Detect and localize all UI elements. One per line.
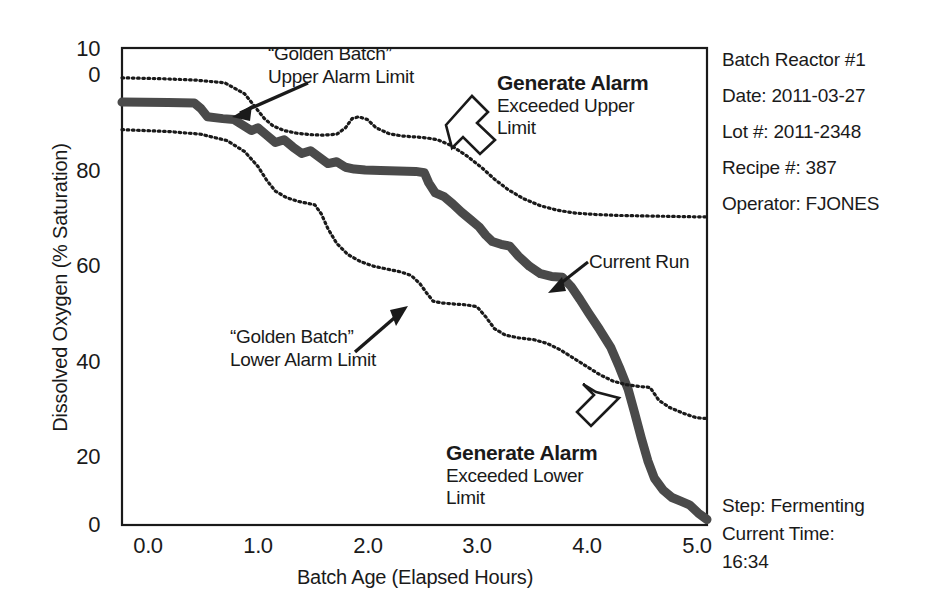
y-axis-title: Dissolved Oxygen (% Saturation): [49, 78, 72, 498]
chart-page: 10 0 80 60 40 20 0 0.0 1.0 2.0 3.0 4.0 5…: [0, 0, 942, 613]
y-tick-0: 0: [38, 512, 100, 538]
info-recipe: Recipe #: 387: [722, 150, 879, 186]
series-path-1: [122, 102, 707, 519]
data-series-layer: [122, 78, 707, 520]
alarm-lower-annotation: Generate Alarm Exceeded Lower Limit: [446, 440, 597, 509]
info-current-time-label: Current Time:: [722, 520, 865, 548]
alarm-upper-line3: Limit: [497, 117, 648, 139]
info-reactor: Batch Reactor #1: [722, 42, 879, 78]
upper-limit-annotation: “Golden Batch” Upper Alarm Limit: [268, 42, 414, 88]
x-tick-2: 2.0: [328, 533, 408, 559]
x-tick-3: 3.0: [437, 533, 517, 559]
info-operator: Operator: FJONES: [722, 186, 879, 222]
x-axis-title: Batch Age (Elapsed Hours): [122, 566, 708, 589]
info-step: Step: Fermenting: [722, 492, 865, 520]
info-current-time-value: 16:34: [722, 548, 865, 576]
status-info-panel: Step: Fermenting Current Time: 16:34: [722, 492, 865, 576]
alarm-upper-arrow-icon: [446, 96, 495, 154]
info-date: Date: 2011-03-27: [722, 78, 879, 114]
lower-limit-line2: Lower Alarm Limit: [230, 348, 376, 371]
current-run-annotation: Current Run: [589, 250, 689, 273]
upper-limit-line1: “Golden Batch”: [268, 42, 414, 65]
alarm-lower-title: Generate Alarm: [446, 440, 597, 465]
alarm-lower-line2: Exceeded Lower: [446, 465, 597, 487]
alarm-upper-line2: Exceeded Upper: [497, 95, 648, 117]
upper-limit-arrow-icon: [232, 83, 308, 121]
batch-info-panel: Batch Reactor #1 Date: 2011-03-27 Lot #:…: [722, 42, 879, 222]
lower-limit-annotation: “Golden Batch” Lower Alarm Limit: [230, 325, 376, 371]
info-lot: Lot #: 2011-2348: [722, 114, 879, 150]
alarm-upper-title: Generate Alarm: [497, 70, 648, 95]
alarm-lower-line3: Limit: [446, 487, 597, 509]
current-run-label: Current Run: [589, 250, 689, 273]
x-tick-1: 1.0: [218, 533, 298, 559]
alarm-upper-annotation: Generate Alarm Exceeded Upper Limit: [497, 70, 648, 139]
upper-limit-line2: Upper Alarm Limit: [268, 65, 414, 88]
y-tick-100-part1: 10: [58, 36, 100, 62]
x-tick-0: 0.0: [108, 533, 188, 559]
alarm-lower-arrow-icon: [577, 384, 619, 426]
x-tick-4: 4.0: [547, 533, 627, 559]
lower-limit-line1: “Golden Batch”: [230, 325, 376, 348]
